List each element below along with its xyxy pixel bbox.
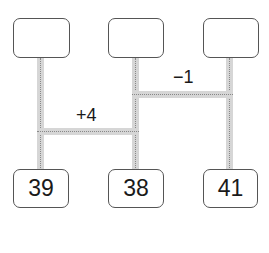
rung-plus-4 [37,128,139,135]
bottom-box-3: 41 [203,169,258,208]
top-box-3[interactable] [203,18,259,58]
ladder-line-2 [132,58,139,170]
ladder-line-1 [37,58,44,170]
rung-label-minus-1: −1 [173,67,194,88]
rung-label-plus-4: +4 [76,105,97,126]
top-box-1[interactable] [13,18,70,58]
bottom-box-2: 38 [108,169,164,208]
rung-minus-1 [132,91,233,98]
ladder-line-3 [226,58,233,170]
bottom-box-1: 39 [13,169,69,208]
top-box-2[interactable] [108,18,164,58]
